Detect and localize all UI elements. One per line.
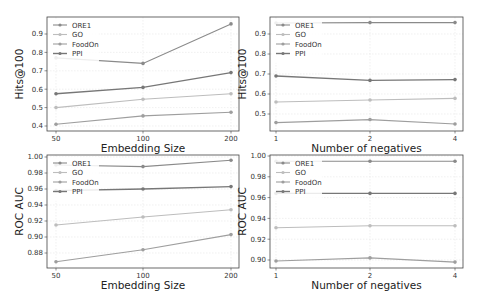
y-tick-label: 0.92: [27, 217, 43, 225]
y-tick-label: 0.92: [250, 236, 266, 244]
chart-panel-bottom-right: ORE1GOFoodOnPPI0.900.920.940.960.981.001…: [236, 152, 463, 291]
data-point: [453, 21, 457, 25]
data-point: [229, 71, 233, 75]
legend-label-ppi: PPI: [72, 50, 83, 58]
chart-panel-top-right: ORE1GOFoodOnPPI0.50.60.70.80.9124Number …: [236, 17, 463, 154]
legend-label-ppi: PPI: [295, 50, 306, 58]
data-point: [368, 118, 372, 122]
series-ppi: [274, 74, 457, 82]
legend-label-ppi: PPI: [72, 188, 83, 196]
data-point: [54, 260, 58, 264]
legend-label-ppi: PPI: [295, 188, 306, 196]
data-point: [54, 122, 58, 126]
chart-panel-top-left: ORE1GOFoodOnPPI0.40.50.60.70.80.95010020…: [13, 17, 239, 154]
y-tick-label: 0.98: [27, 169, 43, 177]
y-tick-label: 1.00: [250, 152, 266, 160]
data-point: [141, 114, 145, 118]
data-point: [229, 185, 233, 189]
data-point: [141, 62, 145, 66]
x-tick-label: 1: [274, 272, 278, 280]
data-point: [141, 215, 145, 219]
data-point: [368, 79, 372, 83]
y-tick-label: 0.88: [27, 249, 43, 257]
legend: ORE1GOFoodOnPPI: [272, 157, 322, 201]
y-tick-label: 0.4: [32, 122, 44, 130]
x-tick-label: 200: [224, 135, 237, 143]
x-tick-label: 50: [52, 135, 61, 143]
data-point: [229, 233, 233, 237]
data-point: [229, 22, 233, 26]
data-point: [453, 192, 457, 196]
data-point: [453, 122, 457, 126]
legend: ORE1GOFoodOnPPI: [272, 19, 322, 63]
figure: ORE1GOFoodOnPPI0.40.50.60.70.80.95010020…: [0, 0, 482, 303]
x-tick-label: 200: [224, 272, 237, 280]
data-point: [453, 78, 457, 82]
data-point: [274, 259, 278, 263]
data-point: [54, 223, 58, 227]
y-tick-label: 0.6: [32, 86, 44, 94]
data-point: [141, 86, 145, 90]
x-axis-label: Number of negatives: [311, 279, 421, 291]
legend-label-foodon: FoodOn: [295, 41, 322, 49]
y-tick-label: 0.8: [32, 49, 43, 57]
legend-label-go: GO: [295, 169, 306, 177]
data-point: [368, 21, 372, 25]
data-point: [368, 256, 372, 260]
data-point: [141, 187, 145, 191]
data-point: [274, 121, 278, 125]
legend-label-ore1: ORE1: [72, 22, 91, 30]
y-tick-label: 0.96: [27, 185, 43, 193]
legend-label-ore1: ORE1: [72, 160, 91, 168]
chart-panel-bottom-left: ORE1GOFoodOnPPI0.880.900.920.940.960.981…: [13, 153, 239, 291]
data-point: [368, 224, 372, 228]
legend-label-foodon: FoodOn: [295, 179, 322, 187]
series-go: [54, 92, 233, 109]
data-point: [141, 165, 145, 169]
x-tick-label: 4: [453, 135, 458, 143]
data-point: [229, 158, 233, 162]
x-tick-label: 50: [52, 272, 61, 280]
data-point: [453, 260, 457, 264]
data-point: [368, 98, 372, 102]
y-tick-label: 1.00: [27, 153, 43, 161]
y-tick-label: 0.9: [255, 30, 266, 38]
y-tick-label: 0.5: [255, 110, 266, 118]
y-axis-label: Hits@100: [13, 49, 25, 100]
y-tick-label: 0.94: [27, 201, 43, 209]
data-point: [453, 97, 457, 101]
series-foodon: [274, 118, 457, 126]
y-tick-label: 0.7: [32, 67, 43, 75]
data-point: [141, 248, 145, 252]
y-tick-label: 0.8: [255, 50, 266, 58]
data-point: [229, 110, 233, 114]
y-tick-label: 0.98: [250, 173, 266, 181]
series-go: [274, 224, 457, 230]
legend-label-ore1: ORE1: [295, 160, 314, 168]
legend-label-foodon: FoodOn: [72, 179, 99, 187]
y-axis-label: ROC AUC: [236, 187, 248, 235]
data-point: [368, 159, 372, 163]
data-point: [453, 159, 457, 163]
x-axis-label: Embedding Size: [101, 142, 185, 154]
data-point: [54, 92, 58, 96]
legend-label-foodon: FoodOn: [72, 41, 99, 49]
y-axis-label: Hits@100: [236, 49, 248, 100]
data-point: [453, 224, 457, 228]
legend-label-go: GO: [72, 169, 83, 177]
y-tick-label: 0.90: [27, 233, 43, 241]
data-point: [274, 100, 278, 104]
data-point: [141, 98, 145, 102]
y-tick-label: 0.7: [255, 70, 266, 78]
data-point: [229, 92, 233, 96]
series-foodon: [54, 233, 233, 264]
y-tick-label: 0.6: [255, 90, 267, 98]
y-tick-label: 0.94: [250, 215, 266, 223]
x-tick-label: 4: [453, 272, 458, 280]
y-tick-label: 0.96: [250, 194, 266, 202]
data-point: [274, 74, 278, 78]
y-tick-label: 0.9: [32, 30, 43, 38]
data-point: [54, 106, 58, 110]
legend: ORE1GOFoodOnPPI: [49, 19, 99, 63]
data-point: [368, 192, 372, 196]
